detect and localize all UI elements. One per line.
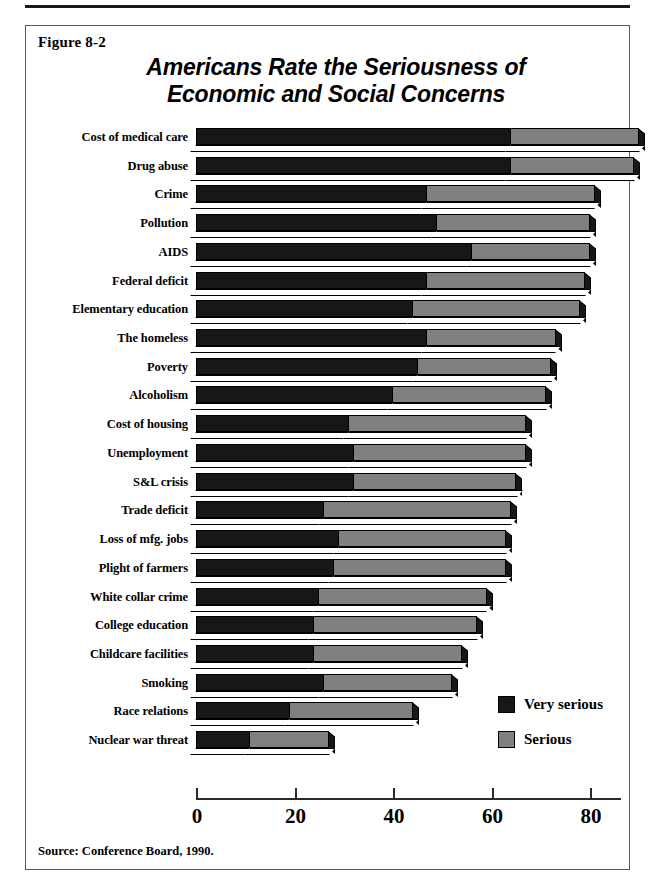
legend-item-very-serious[interactable]: Very serious <box>498 696 603 713</box>
bar-segment-very-serious <box>196 214 437 231</box>
chart-bar-row: Crime <box>26 185 631 211</box>
bar-segment-serious <box>436 214 590 231</box>
bar-category-label: White collar crime <box>0 590 188 605</box>
bar-floor-serious <box>422 346 562 353</box>
bar-category-label: Drug abuse <box>0 159 188 174</box>
bar-segment-very-serious <box>196 702 290 719</box>
bar-floor-serious <box>431 231 596 238</box>
bar-floor-serious <box>466 260 596 267</box>
bar-segment-serious <box>426 329 555 346</box>
bar-floor-very-serious <box>190 633 314 640</box>
bar-segment-very-serious <box>196 501 324 518</box>
chart-bar-row: Alcoholism <box>26 386 631 412</box>
bar-segment-serious <box>510 157 634 174</box>
x-axis-tick <box>590 788 592 799</box>
bar-segment-very-serious <box>196 731 250 748</box>
bar-floor-serious <box>422 202 601 209</box>
bar-floor-very-serious <box>190 403 393 410</box>
bar-floor-serious <box>387 403 552 410</box>
top-divider-rule <box>25 5 630 8</box>
bar-category-label: Pollution <box>0 216 188 231</box>
bar-segment-very-serious <box>196 185 427 202</box>
bar-segment-serious <box>417 358 551 375</box>
bar-category-label: Plight of farmers <box>0 561 188 576</box>
bar-floor-serious <box>308 633 482 640</box>
bar-floor-very-serious <box>190 289 427 296</box>
chart-bar-row: College education <box>26 616 631 642</box>
bar-category-label: AIDS <box>0 245 188 260</box>
bar-floor-very-serious <box>190 748 250 755</box>
bar-category-label: Elementary education <box>0 302 188 317</box>
legend-item-serious[interactable]: Serious <box>498 731 572 748</box>
bar-segment-serious <box>392 386 546 403</box>
bar-floor-very-serious <box>190 547 339 554</box>
chart-bar-row: Unemployment <box>26 444 631 470</box>
bar-segment-very-serious <box>196 300 413 317</box>
bar-segment-serious <box>333 559 506 576</box>
bar-floor-very-serious <box>190 174 511 181</box>
chart-bar-row: Federal deficit <box>26 272 631 298</box>
x-axis-tick-label: 40 <box>371 804 417 829</box>
bar-category-label: Federal deficit <box>0 274 188 289</box>
source-note: Source: Conference Board, 1990. <box>38 844 214 859</box>
chart-bar-row: Poverty <box>26 358 631 384</box>
legend-swatch-icon <box>498 696 515 713</box>
bar-floor-serious <box>343 432 532 439</box>
chart-bar-row: Cost of medical care <box>26 128 631 154</box>
bar-segment-serious <box>353 444 526 461</box>
bar-floor-serious <box>412 375 557 382</box>
bar-category-label: Smoking <box>0 676 188 691</box>
bar-floor-very-serious <box>190 576 334 583</box>
bar-category-label: Poverty <box>0 360 188 375</box>
bar-segment-very-serious <box>196 386 393 403</box>
bar-floor-serious <box>505 145 645 152</box>
bar-category-label: S&L crisis <box>0 475 188 490</box>
bar-segment-very-serious <box>196 415 349 432</box>
bar-floor-serious <box>328 576 512 583</box>
x-axis-tick <box>295 788 297 799</box>
bar-segment-very-serious <box>196 616 314 633</box>
bar-segment-very-serious <box>196 645 314 662</box>
chart-bar-row: White collar crime <box>26 588 631 614</box>
bar-floor-very-serious <box>190 145 511 152</box>
bar-floor-very-serious <box>190 691 324 698</box>
bar-category-label: Cost of housing <box>0 417 188 432</box>
bar-floor-very-serious <box>190 662 314 669</box>
bar-floor-very-serious <box>190 202 427 209</box>
bar-segment-very-serious <box>196 329 427 346</box>
bar-floor-serious <box>318 691 458 698</box>
bar-floor-serious <box>348 461 532 468</box>
bar-floor-very-serious <box>190 490 353 497</box>
bar-segment-serious <box>353 473 517 490</box>
bar-floor-very-serious <box>190 719 289 726</box>
chart-bar-row: AIDS <box>26 243 631 269</box>
chart-bar-row: The homeless <box>26 329 631 355</box>
bar-segment-serious <box>412 300 580 317</box>
bar-floor-serious <box>333 547 512 554</box>
x-axis-tick <box>492 788 494 799</box>
bar-floor-serious <box>244 748 335 755</box>
bar-floor-serious <box>308 662 468 669</box>
bar-segment-very-serious <box>196 128 511 145</box>
chart-bar-row: S&L crisis <box>26 473 631 499</box>
bar-floor-very-serious <box>190 461 353 468</box>
x-axis-line <box>196 798 621 800</box>
chart-bar-row: Elementary education <box>26 300 631 326</box>
bar-segment-serious <box>471 243 590 260</box>
bar-segment-very-serious <box>196 444 354 461</box>
bar-segment-serious <box>426 185 594 202</box>
x-axis-tick <box>196 788 198 799</box>
bar-floor-serious <box>348 490 522 497</box>
bar-floor-serious <box>407 317 586 324</box>
bar-floor-very-serious <box>190 432 349 439</box>
figure-frame: Figure 8-2 Americans Rate the Seriousnes… <box>25 25 630 870</box>
bar-category-label: Childcare facilities <box>0 647 188 662</box>
bar-floor-very-serious <box>190 375 417 382</box>
bar-floor-serious <box>313 605 492 612</box>
chart-bar-row: Cost of housing <box>26 415 631 441</box>
bar-segment-very-serious <box>196 559 334 576</box>
bar-segment-serious <box>323 501 511 518</box>
bar-segment-serious <box>323 674 452 691</box>
chart-bar-row: Trade deficit <box>26 501 631 527</box>
bar-segment-very-serious <box>196 473 354 490</box>
